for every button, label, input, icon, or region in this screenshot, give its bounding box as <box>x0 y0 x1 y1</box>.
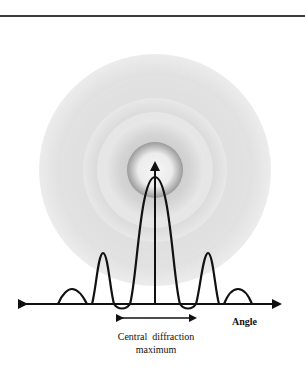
angle-axis-label: Angle <box>232 316 257 327</box>
caption-line-1: Central diffraction <box>100 330 212 343</box>
central-maximum-caption: Central diffraction maximum <box>100 330 212 356</box>
caption-line-2: maximum <box>100 343 212 356</box>
diffraction-diagram <box>0 0 305 376</box>
